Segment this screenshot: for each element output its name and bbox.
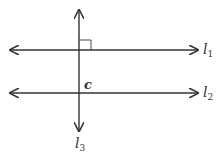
label-l2: l2 bbox=[203, 84, 213, 102]
diagram-canvas: l1 l2 l3 c bbox=[0, 0, 220, 155]
label-l3: l3 bbox=[75, 135, 85, 153]
right-angle-marker bbox=[79, 40, 91, 50]
label-l1: l1 bbox=[203, 41, 213, 59]
point-label-c: c bbox=[84, 77, 92, 92]
